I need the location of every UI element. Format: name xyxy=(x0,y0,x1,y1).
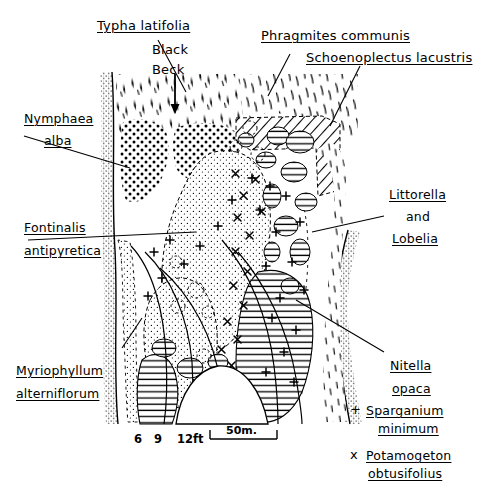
figure-canvas: Typha latifolia Black Beck Phragmites co… xyxy=(0,0,497,500)
legend-label-potamogeton-line2: obtusifolius xyxy=(368,466,442,482)
label-nymphaea-line1: Nymphaea xyxy=(24,111,93,127)
legend-symbol-sparganium: + xyxy=(350,402,361,417)
label-black-beck-line1: Black xyxy=(152,42,188,59)
label-phragmites-communis: Phragmites communis xyxy=(261,28,410,45)
label-fontinalis-line2: antipyretica xyxy=(24,243,101,259)
label-littorella-line2: and xyxy=(406,209,430,225)
legend-label-potamogeton-line1: Potamogeton xyxy=(366,448,451,464)
depth-label-6: 6 xyxy=(134,432,142,446)
label-nitella-line1: Nitella xyxy=(390,358,431,374)
label-littorella-line1: Littorella xyxy=(389,187,446,203)
label-littorella-line3: Lobelia xyxy=(392,231,438,247)
legend-label-sparganium-line1: Sparganium xyxy=(366,403,444,419)
depth-label-12ft: 12ft xyxy=(177,432,204,446)
label-myriophyllum-line1: Myriophyllum xyxy=(16,363,103,379)
legend-symbol-potamogeton: x xyxy=(350,447,358,462)
legend-label-sparganium-line2: minimum xyxy=(378,421,439,437)
depth-label-9: 9 xyxy=(154,432,162,446)
label-nitella-line2: opaca xyxy=(392,381,431,397)
label-schoenoplectus-lacustris: Schoenoplectus lacustris xyxy=(306,50,472,67)
label-typha-latifolia: Typha latifolia xyxy=(97,18,190,35)
label-nymphaea-line2: alba xyxy=(44,133,72,149)
label-fontinalis-line1: Fontinalis xyxy=(24,220,86,236)
scale-bar-label: 50m. xyxy=(226,424,257,437)
label-black-beck-line2: Beck xyxy=(152,62,184,79)
label-myriophyllum-line2: alterniflorum xyxy=(16,386,99,402)
